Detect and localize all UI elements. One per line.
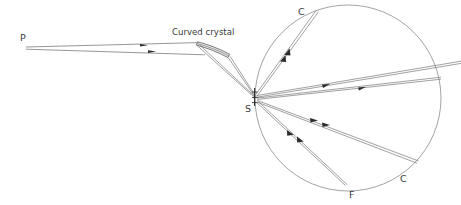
- label-circle-top-c: C: [298, 6, 305, 17]
- figure-root: P Curved crystal S C C F: [0, 0, 461, 205]
- ray-arrow-icon: [297, 137, 304, 143]
- curved-crystal-diagram: P Curved crystal S C C F: [0, 0, 461, 205]
- beam-arrow-icon: [140, 44, 148, 47]
- ray-arrow-icon: [284, 49, 290, 56]
- ray-bundle-to-lower-c: [257, 100, 419, 163]
- label-focus-f: F: [349, 189, 354, 200]
- diverging-ray-bundle: [255, 11, 461, 186]
- ray-arrow-icon: [358, 87, 366, 91]
- ray-bundle-to-f: [257, 101, 348, 185]
- label-source-p: P: [20, 32, 26, 43]
- beam-arrow-icon: [148, 50, 156, 53]
- focusing-circle: [255, 5, 441, 191]
- incident-beam: [26, 43, 205, 55]
- label-curved-crystal: Curved crystal: [172, 27, 234, 37]
- ray-arrow-icon: [322, 84, 330, 88]
- label-circle-bottom-c: C: [400, 173, 407, 184]
- ray-bundle-right-upper: [257, 61, 461, 97]
- ray-bundle-right-lower: [257, 77, 441, 99]
- ray-bundle-to-upper-c: [255, 11, 318, 97]
- label-focus-s: S: [245, 103, 251, 114]
- ray-arrow-icon: [287, 130, 294, 136]
